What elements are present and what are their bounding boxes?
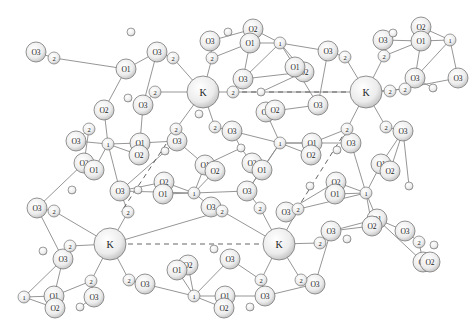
atom-k: K [350,76,382,108]
atom-label: K [275,239,283,250]
atom-label: 2 [259,277,262,284]
atom-label: 1 [278,140,281,147]
atom-2: 2 [206,52,218,64]
atom-o1: O1 [240,33,260,53]
atom-2: 2 [384,85,396,97]
atom-label: 2 [127,277,130,284]
atom-label: O3 [31,48,40,57]
atom-o3: O3 [395,221,415,241]
atom-label: O3 [453,74,462,83]
atom-label: O3 [172,137,181,146]
atom-2: 2 [314,237,326,249]
atom-label: 2 [388,88,391,95]
atom-label: 2 [126,209,129,216]
atom-layer: KKKKO2O1O3O3O1O2O1O3O3O3O2O1O3O2O3O1O2O2… [18,17,468,318]
atom-o3: O3 [135,274,155,294]
atom-o2: O2 [362,216,382,236]
atom-label: O2 [99,106,108,115]
atom-k: K [263,228,295,260]
atom-h [430,241,438,249]
atom-label: O3 [326,227,335,236]
atom-o2: O2 [45,298,65,318]
atom-2: 2 [292,203,304,215]
atom-label: 2 [258,205,261,212]
atom-2: 2 [83,123,95,135]
atom-label: O3 [58,255,67,264]
atom-label: 2 [403,86,406,93]
atom-label: O2 [385,167,394,176]
atom-1: 1 [18,291,30,303]
atom-o2: O2 [420,252,440,272]
atom-2: 2 [167,52,179,64]
atom-label: 1 [448,37,451,44]
atom-label: O1 [172,266,181,275]
crystal-structure-diagram: KKKKO2O1O3O3O1O2O1O3O3O3O2O1O3O2O3O1O2O2… [0,0,476,332]
atom-o3: O3 [110,181,130,201]
atom-label: K [199,87,207,98]
atom-label: 1 [364,190,367,197]
atom-label: O2 [50,304,59,313]
atom-h [195,110,203,118]
atom-1: 1 [102,138,114,150]
atom-o2: O2 [214,298,234,318]
atom-o2: O2 [265,100,285,120]
atom-label: O1 [158,190,167,199]
atom-label: 2 [87,126,90,133]
atom-2: 2 [399,83,411,95]
atom-label: 2 [52,208,55,215]
atom-o2: O2 [205,161,225,181]
atom-2: 2 [227,86,239,98]
atom-2: 2 [85,275,97,287]
atom-label: O3 [378,36,387,45]
atom-h [306,182,314,190]
atom-1: 1 [444,34,456,46]
atom-o3: O3 [237,181,257,201]
atom-o1: O1 [116,59,136,79]
atom-1: 1 [188,290,200,302]
atom-o3: O3 [393,121,413,141]
atom-h [246,303,254,311]
atom-2: 2 [48,52,60,64]
atom-2: 2 [123,274,135,286]
atom-o3: O3 [200,31,220,51]
atom-label: O2 [306,151,315,160]
atom-o2: O2 [94,100,114,120]
atom-h [68,186,76,194]
atom-o3: O3 [133,95,153,115]
atom-h [124,94,132,102]
atom-label: 2 [220,208,223,215]
atom-2: 2 [378,50,390,62]
atom-label: O3 [32,204,41,213]
atom-label: O3 [71,137,80,146]
atom-label: 2 [171,55,174,62]
atom-label: O2 [425,258,434,267]
atom-label: O3 [227,127,236,136]
atom-label: O3 [281,208,290,217]
atom-label: O3 [152,48,161,57]
atom-label: O3 [238,75,247,84]
atom-o3: O3 [84,287,104,307]
atom-1: 1 [274,137,286,149]
atom-label: 2 [231,89,234,96]
atom-label: O3 [346,139,355,148]
atom-label: K [362,87,370,98]
atom-label: 2 [299,277,302,284]
atom-label: O3 [205,37,214,46]
atom-o3: O3 [305,274,325,294]
atom-2: 2 [341,123,353,135]
atom-2: 2 [380,121,392,133]
atom-label: O3 [115,187,124,196]
atom-h [134,186,142,194]
atom-label: O3 [323,47,332,56]
atom-label: O3 [310,280,319,289]
atom-h [161,147,169,155]
atom-o3: O3 [448,68,468,88]
atom-label: O2 [219,304,228,313]
atom-2: 2 [339,51,351,63]
atom-label: 2 [384,124,387,131]
atom-label: 2 [343,54,346,61]
atom-label: 2 [174,126,177,133]
atom-1: 1 [360,187,372,199]
atom-h [343,235,351,243]
atom-label: O3 [138,101,147,110]
